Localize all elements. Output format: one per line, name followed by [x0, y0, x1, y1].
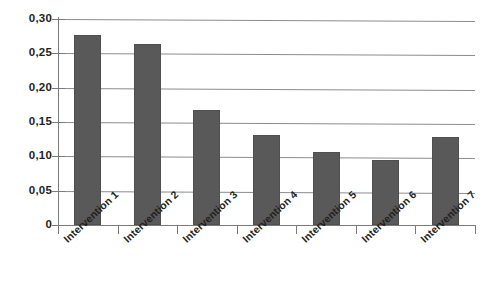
y-axis-tick-labels: 00,050,100,150,200,250,30 — [0, 0, 52, 303]
y-axis-tick-label: 0,25 — [8, 48, 52, 60]
gridline — [58, 53, 475, 56]
y-axis-tick-mark — [52, 122, 65, 123]
x-axis-tick-mark — [58, 225, 59, 234]
x-axis-tick-mark — [177, 225, 178, 234]
y-axis-tick-mark — [52, 19, 65, 20]
x-axis-tick-mark — [475, 225, 476, 234]
x-axis-tick-mark — [118, 225, 119, 234]
y-axis-tick-label: 0 — [8, 219, 52, 231]
bar-chart-figure: 00,050,100,150,200,250,30 Intervention 1… — [0, 0, 498, 303]
y-axis-tick-mark — [52, 225, 65, 226]
y-axis-line — [58, 17, 59, 229]
y-axis-tick-mark — [52, 191, 65, 192]
x-axis-tick-mark — [415, 225, 416, 234]
y-axis-tick-label: 0,10 — [8, 151, 52, 163]
y-axis-tick-label: 0,15 — [8, 116, 52, 128]
gridline — [58, 88, 475, 91]
y-axis-tick-mark — [52, 88, 65, 89]
gridline — [58, 19, 475, 22]
gridline — [58, 122, 475, 125]
y-axis-tick-label: 0,05 — [8, 185, 52, 197]
y-axis-tick-label: 0,20 — [8, 82, 52, 94]
y-axis-tick-mark — [52, 53, 65, 54]
bar — [134, 44, 161, 225]
x-axis-tick-mark — [296, 225, 297, 234]
x-axis-tick-mark — [356, 225, 357, 234]
bar — [74, 35, 101, 225]
y-axis-tick-mark — [52, 156, 65, 157]
x-axis-tick-mark — [237, 225, 238, 234]
y-axis-tick-label: 0,30 — [8, 13, 52, 25]
